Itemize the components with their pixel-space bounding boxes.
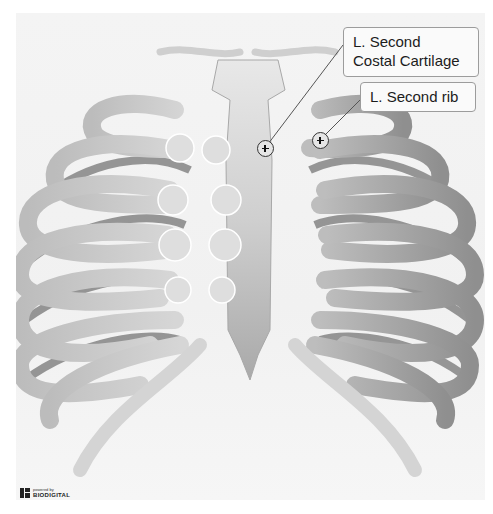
label-line-2: Costal Cartilage <box>353 51 469 70</box>
biodigital-logo-icon <box>20 488 30 498</box>
annotation-label-second-rib[interactable]: L. Second rib <box>360 82 476 112</box>
label-text: L. Second rib <box>370 88 458 105</box>
annotation-marker-costal-cartilage[interactable] <box>257 140 274 157</box>
label-line-1: L. Second <box>353 32 469 51</box>
brand-name: BIODIGITAL <box>33 492 70 499</box>
annotation-label-costal-cartilage[interactable]: L. Second Costal Cartilage <box>343 27 479 77</box>
biodigital-branding[interactable]: powered by BIODIGITAL <box>20 487 70 499</box>
annotation-marker-second-rib[interactable] <box>312 132 329 149</box>
anatomy-3d-viewer[interactable]: L. Second Costal Cartilage L. Second rib <box>16 13 485 500</box>
